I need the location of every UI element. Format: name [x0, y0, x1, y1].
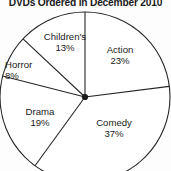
slice-value-children: 13%: [34, 42, 96, 53]
pie-chart-graphic: [0, 0, 171, 171]
slice-label-drama: Drama 19%: [14, 106, 66, 128]
slice-name-children: Children's: [44, 31, 86, 42]
pie-center-dot: [82, 94, 88, 100]
slice-value-action: 23%: [96, 55, 144, 66]
slice-label-children: Children's 13%: [34, 31, 96, 53]
slice-value-drama: 19%: [14, 117, 66, 128]
slice-name-drama: Drama: [26, 106, 55, 117]
slice-label-horror: Horror 8%: [5, 59, 53, 81]
slice-label-comedy: Comedy 37%: [88, 117, 140, 139]
slice-name-action: Action: [107, 44, 134, 55]
slice-value-comedy: 37%: [88, 128, 140, 139]
slice-name-horror: Horror: [5, 59, 32, 70]
pie-chart-figure: DVDs Ordered in December 2010 Action 23%…: [0, 0, 171, 171]
slice-label-action: Action 23%: [96, 44, 144, 66]
slice-value-horror: 8%: [5, 70, 53, 81]
slice-name-comedy: Comedy: [96, 117, 132, 128]
